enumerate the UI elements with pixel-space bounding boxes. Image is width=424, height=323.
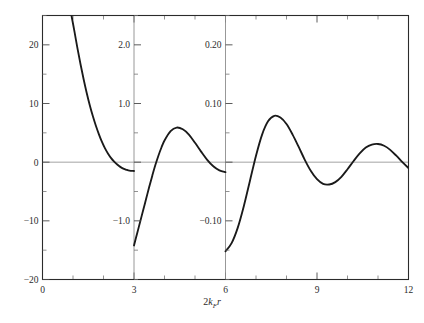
y-tick-label-0-2: 0: [34, 158, 39, 168]
x-tick-label-6: 6: [223, 285, 228, 295]
y-tick-label-0-4: 20: [29, 40, 39, 50]
plot-svg: −20−1001020−1.01.02.0−0.100.100.20 03691…: [0, 0, 424, 323]
x-tick-label-12: 12: [404, 285, 414, 295]
x-tick-label-9: 9: [315, 285, 320, 295]
y-tick-label-0-3: 10: [29, 99, 39, 109]
y-tick-label-2-3: 0.20: [205, 40, 222, 50]
y-tick-label-2-0: −0.10: [200, 216, 222, 226]
y-tick-label-1-3: 2.0: [118, 40, 130, 50]
x-tick-label-3: 3: [132, 285, 137, 295]
y-tick-label-1-0: −1.0: [113, 216, 130, 226]
y-tick-label-2-2: 0.10: [205, 99, 222, 109]
y-tick-label-0-0: −20: [24, 275, 39, 285]
x-tick-label-0: 0: [40, 285, 45, 295]
friedel-oscillation-figure: −20−1001020−1.01.02.0−0.100.100.20 03691…: [0, 0, 424, 323]
y-tick-label-1-2: 1.0: [118, 99, 130, 109]
y-tick-label-0-1: −10: [24, 216, 39, 226]
